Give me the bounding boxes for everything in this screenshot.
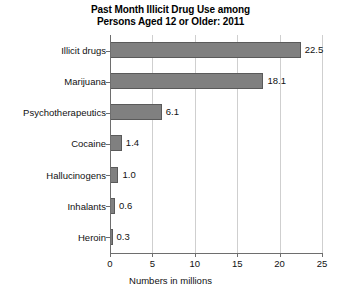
bar-series: 22.518.16.11.41.00.60.3 [110, 35, 322, 253]
x-tick-label: 15 [225, 258, 249, 269]
bar-value-label: 1.4 [126, 135, 139, 151]
x-tick-mark [280, 253, 281, 257]
bar-value-label: 0.3 [117, 229, 130, 245]
x-tick-mark [152, 253, 153, 257]
category-label: Psychotherapeutics [23, 97, 106, 128]
x-tick-label: 0 [98, 258, 122, 269]
chart-title-line-1: Past Month Illicit Drug Use among [0, 4, 341, 16]
x-tick-label: 25 [310, 258, 334, 269]
bar [110, 73, 263, 89]
gridline [322, 35, 323, 253]
x-axis-title: Numbers in millions [0, 275, 341, 286]
bar-value-label: 18.1 [267, 73, 286, 89]
category-label: Cocaine [71, 128, 106, 159]
bar-chart-figure: Past Month Illicit Drug Use among Person… [0, 0, 341, 295]
bar-row: 0.3 [110, 222, 322, 253]
bar [110, 42, 301, 58]
x-tick-mark [110, 253, 111, 257]
x-tick-mark [322, 253, 323, 257]
bar [110, 167, 118, 183]
chart-title-line-2: Persons Aged 12 or Older: 2011 [0, 16, 341, 28]
bar-value-label: 22.5 [305, 42, 324, 58]
bar [110, 104, 162, 120]
bar-row: 1.0 [110, 160, 322, 191]
category-axis-labels: Illicit drugsMarijuanaPsychotherapeutics… [0, 35, 106, 253]
category-label: Marijuana [64, 66, 106, 97]
x-tick-label: 10 [183, 258, 207, 269]
category-label: Illicit drugs [61, 35, 106, 66]
category-label: Hallucinogens [46, 160, 106, 191]
bar-row: 22.5 [110, 35, 322, 66]
bar-value-label: 6.1 [166, 104, 179, 120]
x-tick-label: 5 [140, 258, 164, 269]
plot-area: 22.518.16.11.41.00.60.3 [110, 35, 322, 253]
x-tick-mark [237, 253, 238, 257]
x-tick-label: 20 [268, 258, 292, 269]
x-tick-mark [195, 253, 196, 257]
category-label: Heroin [78, 222, 106, 253]
bar-value-label: 0.6 [119, 198, 132, 214]
bar-row: 6.1 [110, 97, 322, 128]
chart-title: Past Month Illicit Drug Use among Person… [0, 4, 341, 28]
category-label: Inhalants [67, 191, 106, 222]
bar [110, 135, 122, 151]
y-axis-line [110, 35, 111, 253]
bar-value-label: 1.0 [122, 167, 135, 183]
bar-row: 1.4 [110, 128, 322, 159]
bar-row: 18.1 [110, 66, 322, 97]
bar-row: 0.6 [110, 191, 322, 222]
